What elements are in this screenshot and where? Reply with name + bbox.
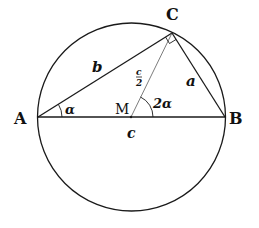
- label-half-c-numerator: c: [136, 67, 142, 77]
- label-half-c: c 2: [135, 67, 142, 88]
- label-c-point: C: [166, 5, 179, 24]
- center-point-m: [130, 116, 132, 118]
- label-side-c: c: [127, 125, 136, 141]
- label-side-a: a: [186, 72, 196, 90]
- angle-arc-2alpha: [141, 97, 154, 117]
- angle-arc-alpha: [59, 105, 63, 118]
- label-m-point: M: [115, 101, 129, 117]
- label-angle-2alpha: 2α: [152, 96, 172, 111]
- label-half-c-denominator: 2: [135, 78, 142, 88]
- label-a-point: A: [13, 109, 27, 128]
- thales-circle-diagram: A B C M b a c c 2 α 2α: [0, 0, 259, 228]
- label-b-point: B: [229, 109, 243, 128]
- label-angle-alpha: α: [65, 102, 75, 117]
- side-a: [172, 33, 225, 117]
- label-side-b: b: [92, 58, 103, 76]
- side-b: [38, 33, 172, 117]
